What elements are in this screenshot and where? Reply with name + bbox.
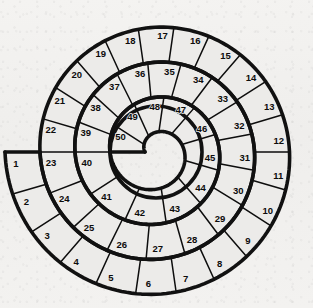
cell-number-11: 11	[273, 170, 284, 181]
cell-number-49: 49	[127, 111, 138, 122]
board-cell-6[interactable]	[136, 257, 176, 294]
cell-number-16: 16	[190, 35, 201, 46]
spiral-track-graphic: 1234567891011121314151617181920212223242…	[0, 0, 313, 308]
cell-number-43: 43	[169, 203, 180, 214]
cell-number-38: 38	[90, 102, 101, 113]
cell-number-4: 4	[73, 256, 79, 267]
cell-number-30: 30	[233, 185, 244, 196]
cell-number-39: 39	[80, 127, 91, 138]
cell-number-5: 5	[108, 272, 114, 283]
cell-number-45: 45	[205, 152, 216, 163]
cell-number-24: 24	[59, 193, 70, 204]
cell-number-12: 12	[273, 135, 284, 146]
cell-number-34: 34	[193, 74, 204, 85]
cell-number-27: 27	[153, 243, 164, 254]
cell-number-35: 35	[164, 66, 175, 77]
cell-number-31: 31	[240, 152, 251, 163]
cell-number-26: 26	[117, 239, 128, 250]
cell-number-17: 17	[157, 30, 168, 41]
cell-number-42: 42	[134, 207, 145, 218]
spiral-board: 1234567891011121314151617181920212223242…	[0, 0, 313, 308]
cell-number-36: 36	[135, 68, 146, 79]
cell-number-13: 13	[264, 101, 275, 112]
cell-number-9: 9	[245, 235, 250, 246]
cell-number-15: 15	[220, 50, 231, 61]
cell-number-7: 7	[183, 273, 188, 284]
cell-number-48: 48	[149, 101, 160, 112]
cell-number-44: 44	[195, 182, 206, 193]
cell-number-29: 29	[215, 213, 226, 224]
cell-number-32: 32	[234, 120, 245, 131]
cell-number-1: 1	[13, 158, 19, 169]
cell-number-8: 8	[217, 258, 222, 269]
cell-number-41: 41	[101, 191, 112, 202]
cell-number-28: 28	[187, 234, 198, 245]
board-cell-17[interactable]	[138, 27, 174, 64]
cell-number-6: 6	[146, 278, 151, 289]
cell-number-23: 23	[46, 157, 57, 168]
cell-number-10: 10	[263, 205, 274, 216]
cell-number-19: 19	[96, 48, 107, 59]
cell-number-14: 14	[246, 72, 257, 83]
cell-number-40: 40	[81, 157, 92, 168]
cell-number-37: 37	[109, 81, 120, 92]
cell-number-2: 2	[24, 196, 29, 207]
cell-number-50: 50	[115, 131, 126, 142]
cell-number-21: 21	[54, 95, 65, 106]
cell-number-22: 22	[46, 124, 57, 135]
cell-number-47: 47	[175, 104, 186, 115]
cell-number-3: 3	[44, 230, 49, 241]
cell-number-46: 46	[197, 123, 208, 134]
cell-number-25: 25	[84, 222, 95, 233]
cell-number-18: 18	[125, 35, 136, 46]
cell-number-33: 33	[218, 93, 229, 104]
cell-number-20: 20	[71, 69, 82, 80]
